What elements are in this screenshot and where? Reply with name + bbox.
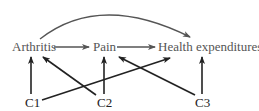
edge-c1-to-health	[42, 58, 170, 100]
edge-c2-to-arthritis	[43, 57, 96, 95]
node-c2: C2	[97, 95, 112, 110]
node-c1: C1	[25, 95, 40, 110]
node-pain: Pain	[93, 39, 117, 54]
causal-diagram: Arthritis Pain Health expenditures C1 C2…	[0, 0, 259, 111]
node-c3: C3	[195, 95, 210, 110]
node-arthritis: Arthritis	[12, 39, 56, 54]
edge-arthritis-to-health-curved	[40, 15, 190, 39]
node-health-expenditures: Health expenditures	[158, 39, 259, 54]
